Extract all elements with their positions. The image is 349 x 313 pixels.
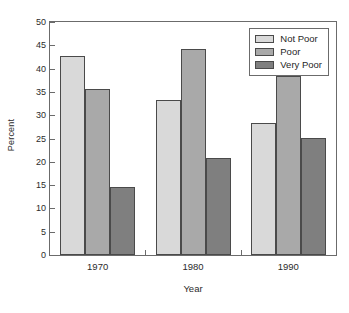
bar-1970-not-poor xyxy=(60,56,85,255)
y-axis-title-text: Percent xyxy=(6,119,16,151)
y-tick-mark xyxy=(50,139,55,140)
x-tick-mark xyxy=(241,250,242,255)
y-tick-label: 40 xyxy=(20,64,46,73)
y-tick-mark xyxy=(50,92,55,93)
bar-1990-very-poor xyxy=(301,138,326,255)
y-tick-label: 10 xyxy=(20,204,46,213)
legend: Not PoorPoorVery Poor xyxy=(249,28,329,76)
y-tick-label: 15 xyxy=(20,181,46,190)
y-tick-label: 25 xyxy=(20,134,46,143)
y-tick-mark xyxy=(50,255,55,256)
y-tick-mark xyxy=(50,232,55,233)
legend-swatch-icon xyxy=(255,48,274,56)
x-axis-title: Year xyxy=(49,283,337,294)
y-tick-label: 45 xyxy=(20,41,46,50)
legend-item-not-poor: Not Poor xyxy=(255,33,322,45)
x-tick-label-1970: 1970 xyxy=(87,262,108,272)
y-axis-tick-labels: 05101520253035404550 xyxy=(20,28,46,256)
y-tick-label: 0 xyxy=(20,251,46,260)
bar-1980-poor xyxy=(181,49,206,255)
x-tick-label-1990: 1990 xyxy=(278,262,299,272)
legend-swatch-icon xyxy=(255,61,274,69)
y-tick-mark xyxy=(50,208,55,209)
bar-chart: Percent 05101520253035404550 Not PoorPoo… xyxy=(0,0,349,313)
y-tick-mark xyxy=(50,45,55,46)
y-tick-label: 30 xyxy=(20,111,46,120)
y-tick-label: 5 xyxy=(20,227,46,236)
y-tick-mark xyxy=(50,162,55,163)
legend-item-very-poor: Very Poor xyxy=(255,59,322,71)
y-tick-mark xyxy=(50,185,55,186)
bar-1980-not-poor xyxy=(156,100,181,255)
y-tick-mark xyxy=(50,69,55,70)
legend-label: Not Poor xyxy=(280,34,318,44)
y-tick-mark xyxy=(50,22,55,23)
y-tick-mark xyxy=(50,115,55,116)
bar-1990-not-poor xyxy=(251,123,276,255)
y-tick-label: 35 xyxy=(20,87,46,96)
y-axis-title: Percent xyxy=(2,0,20,270)
bar-1990-poor xyxy=(276,76,301,255)
bar-1980-very-poor xyxy=(206,158,231,255)
legend-item-poor: Poor xyxy=(255,46,322,58)
x-tick-mark xyxy=(145,250,146,255)
y-tick-label: 50 xyxy=(20,18,46,27)
y-tick-label: 20 xyxy=(20,157,46,166)
bar-1970-poor xyxy=(85,89,110,255)
bar-1970-very-poor xyxy=(110,187,135,255)
legend-label: Very Poor xyxy=(280,60,322,70)
legend-label: Poor xyxy=(280,47,300,57)
plot-area: Not PoorPoorVery Poor xyxy=(49,21,337,256)
x-tick-label-1980: 1980 xyxy=(182,262,203,272)
legend-swatch-icon xyxy=(255,35,274,43)
